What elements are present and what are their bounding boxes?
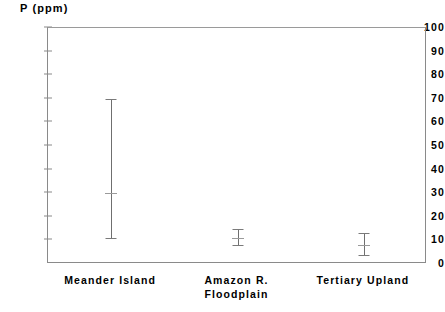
error-bar-cap-upper xyxy=(358,233,369,234)
x-tick-label: Tertiary Upland xyxy=(283,273,443,287)
error-bar-cap-lower xyxy=(358,255,369,256)
error-bar-stem xyxy=(364,233,365,254)
error-bar-mean-marker xyxy=(358,245,370,246)
y-axis-title: P (ppm) xyxy=(20,2,68,14)
error-bar-cap-lower xyxy=(232,245,243,246)
plot-area xyxy=(47,27,426,263)
error-bar-mean-marker xyxy=(232,238,244,239)
error-bar-cap-lower xyxy=(106,238,117,239)
error-bar-stem xyxy=(238,229,239,246)
error-bar-cap-upper xyxy=(106,99,117,100)
error-bar-cap-upper xyxy=(232,229,243,230)
error-bar-series xyxy=(48,28,425,262)
error-bar-mean-marker xyxy=(105,193,117,194)
chart-figure: P (ppm) 0102030405060708090100 Meander I… xyxy=(0,0,445,312)
error-bar-stem xyxy=(111,99,112,238)
